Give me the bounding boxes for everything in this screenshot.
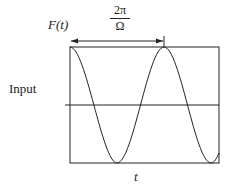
period-numerator: 2π xyxy=(108,4,132,16)
input-label: Input xyxy=(9,82,36,95)
arrowhead-left-icon xyxy=(71,39,78,44)
period-denominator: Ω xyxy=(108,20,132,32)
y-axis-label: F(t) xyxy=(48,18,68,31)
arrowhead-right-icon xyxy=(156,39,163,44)
period-fraction: 2π Ω xyxy=(108,4,132,32)
x-axis-label: t xyxy=(134,170,138,183)
